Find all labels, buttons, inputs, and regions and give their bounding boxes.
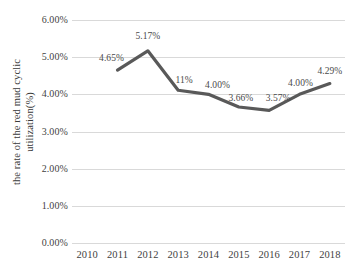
data-point-label: 3.57% bbox=[266, 93, 291, 104]
data-point-label: 11% bbox=[176, 75, 193, 86]
data-point-label: 5.17% bbox=[135, 31, 160, 42]
line-chart: utilization(%) the rate of the red mud c… bbox=[0, 0, 353, 271]
data-point-label: 4.29% bbox=[317, 66, 342, 77]
data-point-labels: 4.65%5.17%11%4.00%3.66%3.57%4.00%4.29% bbox=[0, 0, 353, 271]
data-point-label: 4.00% bbox=[205, 80, 230, 91]
data-point-label: 4.65% bbox=[99, 53, 124, 64]
data-point-label: 3.66% bbox=[228, 93, 253, 104]
data-point-label: 4.00% bbox=[288, 78, 313, 89]
